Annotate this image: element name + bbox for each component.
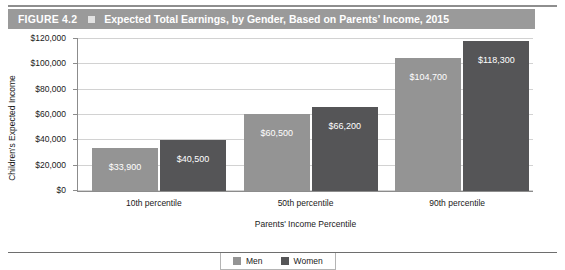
x-axis-category-label: 10th percentile <box>78 198 230 208</box>
bar-value-label: $118,300 <box>463 55 529 65</box>
women-swatch-icon <box>281 257 289 265</box>
figure-title: Expected Total Earnings, by Gender, Base… <box>104 13 449 25</box>
bar-value-label: $33,900 <box>92 162 158 172</box>
chart-area: Children's Expected Income $0$20,000$40,… <box>0 33 565 248</box>
bar-men-1[interactable]: $60,500 <box>244 114 310 191</box>
legend-label-men: Men <box>246 256 263 266</box>
bar-men-2[interactable]: $104,700 <box>395 58 461 191</box>
x-axis-category-label: 50th percentile <box>230 198 382 208</box>
x-axis-line <box>77 191 533 192</box>
bar-group: $60,500$66,20050th percentile <box>230 39 382 191</box>
bar-women-0[interactable]: $40,500 <box>160 140 226 191</box>
y-axis-tick-label: $0 <box>57 185 66 195</box>
figure-number: FIGURE 4.2 <box>18 13 77 25</box>
bar-men-0[interactable]: $33,900 <box>92 148 158 191</box>
legend-item-women: Women <box>281 256 323 266</box>
top-divider <box>8 5 557 7</box>
x-axis-title: Parents' Income Percentile <box>78 219 533 229</box>
x-axis-category-label: 90th percentile <box>381 198 533 208</box>
figure-header: FIGURE 4.2 Expected Total Earnings, by G… <box>8 9 535 29</box>
bar-groups: $33,900$40,50010th percentile$60,500$66,… <box>78 39 533 191</box>
square-icon <box>88 16 95 23</box>
legend-label-women: Women <box>294 256 323 266</box>
bottom-divider <box>8 252 557 253</box>
y-axis-tick-label: $20,000 <box>35 160 66 170</box>
men-swatch-icon <box>233 257 241 265</box>
y-axis-title: Children's Expected Income <box>7 73 17 183</box>
y-axis-tick-label: $40,000 <box>35 134 66 144</box>
bar-value-label: $66,200 <box>312 121 378 131</box>
bar-women-2[interactable]: $118,300 <box>463 41 529 191</box>
plot-area: $0$20,000$40,000$60,000$80,000$100,000$1… <box>78 39 533 191</box>
y-axis-tick-label: $80,000 <box>35 84 66 94</box>
legend-item-men: Men <box>233 256 263 266</box>
chart-legend: Men Women <box>220 252 336 270</box>
y-axis-tick-label: $120,000 <box>31 33 66 43</box>
bar-value-label: $40,500 <box>160 154 226 164</box>
y-axis-tick-label: $100,000 <box>31 58 66 68</box>
y-axis-tick-label: $60,000 <box>35 109 66 119</box>
bar-value-label: $104,700 <box>395 72 461 82</box>
bar-group: $104,700$118,30090th percentile <box>381 39 533 191</box>
bar-women-1[interactable]: $66,200 <box>312 107 378 191</box>
bar-value-label: $60,500 <box>244 128 310 138</box>
bar-group: $33,900$40,50010th percentile <box>78 39 230 191</box>
